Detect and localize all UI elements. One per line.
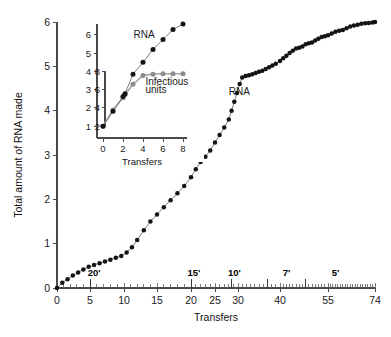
main-series-point xyxy=(65,277,70,282)
timing-annotation: 15' xyxy=(187,267,200,278)
x-axis-tick-label: 40 xyxy=(274,294,286,306)
timing-annotation: 10' xyxy=(228,267,241,278)
x-axis-tick-label: 0 xyxy=(54,294,60,306)
y-axis-tick-label: 0 xyxy=(44,282,50,294)
inset-y-axis-outer-label: 6 xyxy=(86,29,91,40)
main-series-point xyxy=(81,267,86,272)
main-series-point xyxy=(108,257,113,262)
inset-x-axis-tick-label: 2 xyxy=(120,143,125,154)
inset-y-axis-inner-label: 4 xyxy=(95,102,100,113)
y-axis-tick-label: 3 xyxy=(44,149,50,161)
main-series-point xyxy=(189,175,194,180)
inset-dark-series-point xyxy=(161,37,166,42)
x-axis-tick-label: 10 xyxy=(118,294,130,306)
x-axis-tick-label: 55 xyxy=(322,294,334,306)
main-series-point xyxy=(119,254,124,259)
y-axis-title: Total amount of RNA made xyxy=(12,92,24,218)
inset-dark-series-point xyxy=(111,109,116,114)
inset-dark-series-point xyxy=(151,47,156,52)
main-series-point xyxy=(135,238,140,243)
x-axis-tick-label: 74 xyxy=(369,294,381,306)
main-series-point xyxy=(217,133,222,138)
y-axis-tick-label: 5 xyxy=(44,60,50,72)
x-axis-tick-label: 30 xyxy=(232,294,244,306)
inset-y-axis-outer-label: 5 xyxy=(86,48,91,59)
main-series-point xyxy=(175,191,180,196)
main-series-point xyxy=(71,273,76,278)
main-series-point xyxy=(373,20,378,25)
y-axis-tick-label: 2 xyxy=(44,193,50,205)
main-series-point xyxy=(130,245,135,250)
inset-y-axis-outer-label: 3 xyxy=(86,84,91,95)
main-series-point xyxy=(232,100,237,105)
y-axis-tick-label: 4 xyxy=(44,104,50,116)
main-series-point xyxy=(194,167,199,172)
main-series-point xyxy=(162,205,167,210)
inset-y-axis-outer-label: 4 xyxy=(86,66,91,77)
main-series-point xyxy=(213,140,218,145)
inset-dark-series-point xyxy=(171,27,176,32)
inset-y-axis-inner-label: 8 xyxy=(95,66,100,77)
x-axis-title: Transfers xyxy=(194,311,238,323)
main-series-point xyxy=(229,108,234,113)
series-annotation: RNA xyxy=(229,86,250,97)
main-series-point xyxy=(148,219,153,224)
inset-x-axis-tick-label: 4 xyxy=(140,143,145,154)
main-series-point xyxy=(274,61,279,66)
y-axis-tick-label: 1 xyxy=(44,237,50,249)
x-axis-tick-label: 5 xyxy=(87,294,93,306)
inset-y-axis-inner-label: 6 xyxy=(95,84,100,95)
inset-series-annotation: RNA xyxy=(134,29,155,40)
inset-y-axis-inner-label: 2 xyxy=(95,121,100,132)
main-series-point xyxy=(168,198,173,203)
main-series-point xyxy=(76,270,81,275)
inset-series-annotation: units xyxy=(146,84,167,95)
inset-x-axis-tick-label: 0 xyxy=(100,143,105,154)
x-axis-tick-label: 20 xyxy=(185,294,197,306)
main-series-point xyxy=(208,148,213,153)
inset-dark-series-point xyxy=(123,91,128,96)
figure-root: 0123456Total amount of RNA made051015202… xyxy=(0,0,391,337)
timing-annotation: 5' xyxy=(332,267,340,278)
inset-x-axis-title: Transfers xyxy=(122,156,162,167)
main-series-point xyxy=(60,280,65,285)
inset-x-axis-tick-label: 6 xyxy=(160,143,165,154)
timing-annotation: 7' xyxy=(283,267,291,278)
main-series-point xyxy=(103,259,108,264)
inset-x-axis-tick-label: 8 xyxy=(180,143,185,154)
main-series-point xyxy=(97,261,102,266)
inset-dark-series-point xyxy=(181,22,186,27)
timing-annotation: 20' xyxy=(88,267,101,278)
main-series-point xyxy=(222,125,227,130)
inset-dark-series-point xyxy=(101,124,106,129)
rna-replication-figure: 0123456Total amount of RNA made051015202… xyxy=(0,0,391,337)
main-series-point xyxy=(142,228,147,233)
main-series-point xyxy=(182,184,187,189)
x-axis-tick-label: 25 xyxy=(209,294,221,306)
main-series-point xyxy=(155,212,160,217)
inset-dark-series-point xyxy=(141,60,146,65)
main-series-point xyxy=(124,250,129,255)
main-series-point xyxy=(55,286,60,291)
inset-y-axis-outer-label: 1 xyxy=(86,121,91,132)
y-axis-tick-label: 6 xyxy=(44,16,50,28)
inset-gray-series-point xyxy=(131,82,136,87)
x-axis-tick-label: 15 xyxy=(151,294,163,306)
main-series-point xyxy=(114,256,119,261)
inset-y-axis-outer-label: 2 xyxy=(86,102,91,113)
inset-dark-series-point xyxy=(131,72,136,77)
inset-chart: 123456246802468TransfersRNAInfectiousuni… xyxy=(62,16,204,167)
main-series-point xyxy=(227,117,232,122)
